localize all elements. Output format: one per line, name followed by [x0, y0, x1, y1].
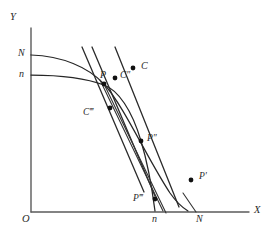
- point-label-Cpp: C″: [120, 71, 130, 81]
- point-label-P: P: [100, 70, 106, 80]
- point-label-C: C: [141, 61, 148, 71]
- point-marker-Cpp: [113, 76, 118, 81]
- y-tick-label-N: N: [18, 48, 25, 58]
- y-tick-label-n: n: [19, 69, 24, 79]
- diagram-svg: [0, 0, 273, 244]
- point-label-Pp: P′: [199, 172, 207, 182]
- x-tick-label-n: n: [152, 214, 157, 224]
- outer-transformation-curve: [31, 55, 188, 211]
- point-marker-Cppp: [108, 106, 113, 111]
- tangent-segment-through-Cppp: [100, 80, 163, 211]
- point-marker-Pppp: [153, 197, 158, 202]
- x-axis-label: X: [254, 205, 260, 216]
- inner-transformation-curve: [31, 75, 155, 211]
- point-marker-Pp: [189, 178, 194, 183]
- point-marker-Ppp: [139, 139, 144, 144]
- point-label-Ppp: P″: [147, 134, 157, 144]
- x-tick-label-N: N: [196, 214, 203, 224]
- point-label-Pppp: P‴: [133, 194, 143, 204]
- origin-label: O: [22, 214, 30, 225]
- point-marker-P: [102, 82, 107, 87]
- point-label-Cppp: C‴: [83, 108, 93, 118]
- y-axis-label: Y: [10, 12, 16, 23]
- point-marker-C: [131, 66, 136, 71]
- figure-canvas: Y X O N n n N P C″ C C‴ P″ P′ P‴: [0, 0, 273, 244]
